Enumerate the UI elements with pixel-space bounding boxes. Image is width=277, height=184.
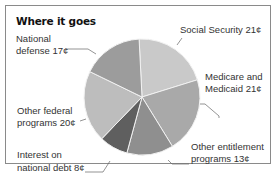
label-other-entitlement-line1: Other entitlement [191, 141, 264, 153]
label-other-entitlement-line2: programs 13¢ [191, 153, 250, 165]
label-interest-line1: Interest on [17, 149, 62, 161]
label-medicare-line1: Medicare and [205, 71, 263, 83]
pie-slices [84, 39, 200, 155]
label-defense-line1: National [16, 33, 51, 45]
label-other-federal-line1: Other federal [17, 105, 72, 117]
label-other-federal-line2: programs 20¢ [17, 117, 76, 129]
label-defense-line2: defense 17¢ [16, 45, 68, 57]
label-interest-line2: national debt 8¢ [17, 162, 85, 174]
label-social-security: Social Security 21¢ [180, 24, 261, 36]
label-medicare-line2: Medicaid 21¢ [205, 83, 262, 95]
